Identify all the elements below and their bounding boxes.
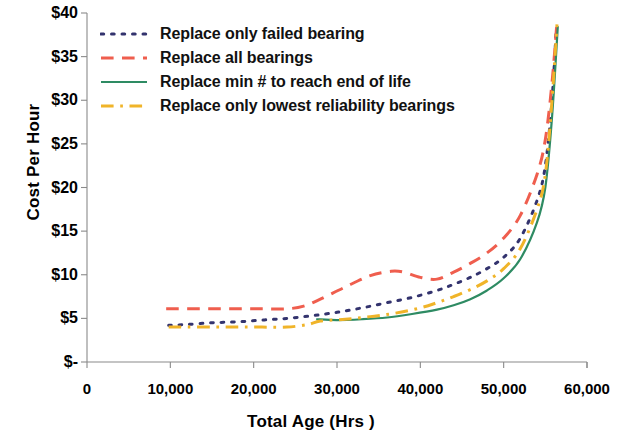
legend-swatch-icon bbox=[100, 51, 148, 65]
legend-label: Replace all bearings bbox=[160, 49, 313, 67]
legend-label: Replace min # to reach end of life bbox=[160, 73, 411, 91]
legend-swatch-icon bbox=[100, 99, 148, 113]
legend-swatch-icon bbox=[100, 27, 148, 41]
legend-label: Replace only failed bearing bbox=[160, 25, 364, 43]
legend-item[interactable]: Replace all bearings bbox=[100, 46, 455, 70]
legend-item[interactable]: Replace only failed bearing bbox=[100, 22, 455, 46]
chart-container: Cost Per Hour Total Age (Hrs ) $40$35$30… bbox=[0, 0, 622, 440]
legend-label: Replace only lowest reliability bearings bbox=[160, 97, 455, 115]
legend-item[interactable]: Replace min # to reach end of life bbox=[100, 70, 455, 94]
legend-swatch-icon bbox=[100, 75, 148, 89]
legend-item[interactable]: Replace only lowest reliability bearings bbox=[100, 94, 455, 118]
chart-legend: Replace only failed bearingReplace all b… bbox=[100, 22, 455, 118]
